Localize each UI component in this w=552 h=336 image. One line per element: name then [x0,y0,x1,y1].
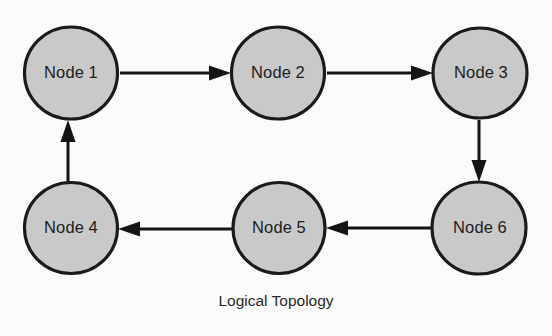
edge-node3-to-node6 [472,120,487,182]
node-5[interactable]: Node 5 [233,183,325,274]
edge-node1-to-node2 [120,66,231,81]
edge-node5-to-node4 [118,222,232,237]
edge-node2-to-node3 [327,66,433,81]
node-2[interactable]: Node 2 [232,27,325,119]
edge-node2-to-node3-arrowhead [411,66,433,81]
logical-topology-diagram: Node 1 Node 2 Node 3 Node 4 Node 5 Node … [0,0,552,336]
node-1[interactable]: Node 1 [25,27,118,119]
edge-node1-to-node2-arrowhead [209,66,231,81]
node-6[interactable]: Node 6 [432,182,526,274]
edge-node6-to-node5-arrowhead [326,221,348,236]
node-5-label: Node 5 [252,218,306,236]
edge-node4-to-node1-arrowhead [61,120,76,142]
node-2-label: Node 2 [251,63,305,81]
node-3-label: Node 3 [454,63,508,81]
node-4-label: Node 4 [44,218,98,236]
node-4[interactable]: Node 4 [25,183,118,274]
edge-node3-to-node6-arrowhead [472,160,487,182]
topology-canvas: Node 1 Node 2 Node 3 Node 4 Node 5 Node … [0,0,552,336]
edge-node6-to-node5 [326,221,431,236]
node-3[interactable]: Node 3 [433,28,527,118]
edge-node4-to-node1 [61,120,76,182]
node-6-label: Node 6 [453,218,507,236]
edge-node5-to-node4-arrowhead [118,222,140,237]
node-1-label: Node 1 [44,63,98,81]
figure-caption: Logical Topology [218,292,333,309]
